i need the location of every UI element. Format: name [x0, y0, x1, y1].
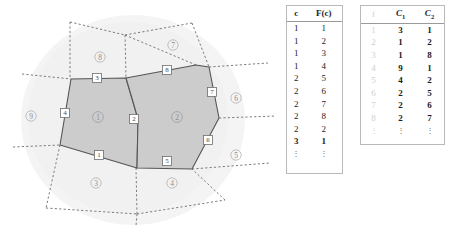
table-row: 1 3 1: [361, 23, 444, 36]
cell-c2-ellipsis: ⋮: [415, 125, 444, 138]
cell-c2: 5: [415, 87, 444, 100]
edge-label-1: 1: [95, 151, 104, 160]
edge-label-5-text: 5: [165, 157, 169, 165]
cell-f: 6: [361, 87, 386, 100]
cell-c: 1: [287, 47, 306, 60]
cell-f: 4: [361, 62, 386, 75]
table-row: 6 2 5: [361, 87, 444, 100]
cell-fc: 8: [306, 110, 342, 123]
column-header-f: f: [361, 6, 386, 23]
cell-c: 3: [287, 135, 306, 148]
outer-cell-8-label: 8: [98, 53, 102, 62]
table-c-fc-grid: c F(c) 1 1 1 2 1 3 1 4: [287, 6, 342, 161]
cell-c: 1: [287, 35, 306, 48]
table-row: 2 6: [287, 85, 342, 98]
cell-c: 2: [287, 123, 306, 136]
cell-c1-ellipsis: ⋮: [386, 125, 415, 138]
cell-fc: 1: [306, 22, 342, 35]
cell-c1: 3: [386, 23, 415, 36]
cell-c1: 4: [386, 74, 415, 87]
edge-label-6: 6: [204, 136, 213, 145]
figure-root: 8 7 6 5 4: [0, 0, 451, 232]
edge-label-6-text: 6: [206, 136, 210, 144]
cell-c1: 2: [386, 99, 415, 112]
table-row: 7 2 6: [361, 99, 444, 112]
outer-cell-6-label: 6: [234, 94, 238, 103]
column-header-c2-sub: 2: [431, 13, 434, 20]
table-f-c1-c2: f C1 C2 1 3 1 2 1 2 3 1: [360, 5, 445, 145]
cell-f: 7: [361, 99, 386, 112]
column-header-c1-sub: 1: [402, 13, 405, 20]
cell-c2: 8: [415, 49, 444, 62]
cell-c2: 1: [415, 62, 444, 75]
table-row: 4 9 1: [361, 62, 444, 75]
cell-c2: 2: [415, 74, 444, 87]
cell-c2: 7: [415, 112, 444, 125]
table-c-fc-header-row: c F(c): [287, 6, 342, 22]
cell-c1: 1: [386, 49, 415, 62]
table-row: 2 1 2: [361, 36, 444, 49]
cell-fc-ellipsis: ⋮: [306, 148, 342, 161]
column-header-c1: C1: [386, 6, 415, 23]
cell-c2: 2: [415, 36, 444, 49]
cell-c1: 2: [386, 112, 415, 125]
table-c-fc: c F(c) 1 1 1 2 1 3 1 4: [286, 5, 343, 174]
table-c-fc-body: 1 1 1 2 1 3 1 4 2 5: [287, 22, 342, 161]
cell-c: 2: [287, 72, 306, 85]
cell-fc: 2: [306, 35, 342, 48]
cell-fc: 4: [306, 60, 342, 73]
cell-fc: 1: [306, 135, 342, 148]
edge-label-7: 7: [208, 88, 217, 97]
edge-label-1-text: 1: [97, 151, 101, 159]
table-row: 2 2: [287, 123, 342, 136]
outer-cell-4-label: 4: [170, 179, 174, 188]
cell-f: 2: [361, 36, 386, 49]
table-row: 2 5: [287, 72, 342, 85]
cell-fc: 7: [306, 98, 342, 111]
table-row: 1 4: [287, 60, 342, 73]
outer-cell-9-label: 9: [29, 112, 33, 121]
outer-cell-5-label: 5: [234, 151, 238, 160]
cell-c2: 6: [415, 99, 444, 112]
cell-f: 5: [361, 74, 386, 87]
edge-label-8-text: 8: [165, 66, 169, 74]
column-header-fc: F(c): [306, 6, 342, 22]
table-c-fc-head: c F(c): [287, 6, 342, 22]
highlighted-cell-2-label: 2: [175, 113, 179, 122]
table-row: 1 3: [287, 47, 342, 60]
cell-f: 8: [361, 112, 386, 125]
table-row-ellipsis: ⋮ ⋮: [287, 148, 342, 161]
table-f-c1-c2-body: 1 3 1 2 1 2 3 1 8 4 9 1: [361, 23, 444, 137]
cell-c: 1: [287, 60, 306, 73]
table-row: 3 1 8: [361, 49, 444, 62]
table-row-ellipsis: ⋮ ⋮ ⋮: [361, 125, 444, 138]
cell-c: 1: [287, 22, 306, 35]
cell-c1: 9: [386, 62, 415, 75]
cell-fc: 2: [306, 123, 342, 136]
edge-label-5: 5: [163, 157, 172, 166]
table-f-c1-c2-grid: f C1 C2 1 3 1 2 1 2 3 1: [361, 6, 444, 137]
voronoi-diagram: 8 7 6 5 4: [0, 0, 280, 232]
outer-cell-7-label: 7: [171, 41, 175, 50]
cell-c1: 2: [386, 87, 415, 100]
cell-fc: 3: [306, 47, 342, 60]
edge-label-8: 8: [163, 66, 172, 75]
table-f-c1-c2-head: f C1 C2: [361, 6, 444, 23]
table-row: 2 7: [287, 98, 342, 111]
table-row: 2 8: [287, 110, 342, 123]
cell-c: 2: [287, 85, 306, 98]
table-row: 1 2: [287, 35, 342, 48]
cell-f: 3: [361, 49, 386, 62]
highlighted-cell-1-label: 1: [96, 113, 100, 122]
cell-c: 2: [287, 98, 306, 111]
edge-label-4: 4: [61, 109, 70, 118]
table-row: 1 1: [287, 22, 342, 35]
edge-label-2: 2: [130, 115, 139, 124]
cell-c-ellipsis: ⋮: [287, 148, 306, 161]
cell-fc: 5: [306, 72, 342, 85]
edge-label-2-text: 2: [132, 115, 136, 123]
cell-c: 2: [287, 110, 306, 123]
cell-c1: 1: [386, 36, 415, 49]
edge-label-3-text: 3: [95, 74, 99, 82]
table-row: 5 4 2: [361, 74, 444, 87]
